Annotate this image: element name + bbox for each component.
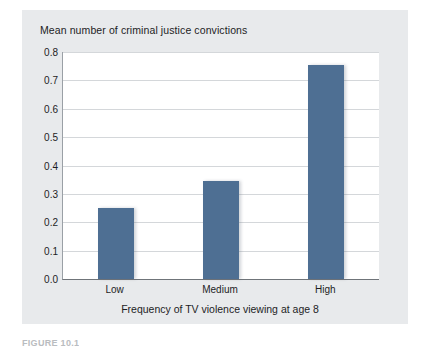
plot-area bbox=[62, 52, 379, 280]
y-axis-tick-label: 0.7 bbox=[44, 75, 58, 86]
y-axis-tick-label: 0.5 bbox=[44, 132, 58, 143]
y-axis-tick-labels: 0.80.70.60.50.40.30.20.10.0 bbox=[26, 52, 58, 279]
y-axis-tick-label: 0.6 bbox=[44, 103, 58, 114]
y-axis-tick-label: 0.1 bbox=[44, 245, 58, 256]
bar-series bbox=[63, 52, 379, 279]
y-axis-tick-label: 0.8 bbox=[44, 47, 58, 58]
y-axis-tick-label: 0.2 bbox=[44, 217, 58, 228]
bar-slot bbox=[274, 52, 379, 279]
figure-caption: FIGURE 10.1 bbox=[22, 338, 79, 347]
x-axis-tick-label: High bbox=[315, 284, 336, 295]
bar-slot bbox=[168, 52, 273, 279]
bar[interactable] bbox=[98, 208, 134, 279]
bar[interactable] bbox=[203, 181, 239, 279]
x-axis-tick-label: Low bbox=[105, 284, 123, 295]
bar[interactable] bbox=[308, 65, 344, 279]
chart-title: Mean number of criminal justice convicti… bbox=[40, 24, 247, 36]
y-axis-tick-label: 0.4 bbox=[44, 160, 58, 171]
y-axis-tick-label: 0.3 bbox=[44, 188, 58, 199]
x-axis-tick-label: Medium bbox=[202, 284, 238, 295]
bar-slot bbox=[63, 52, 168, 279]
x-axis-category-labels: LowMediumHigh bbox=[62, 284, 378, 300]
y-axis-tick-label: 0.0 bbox=[44, 274, 58, 285]
x-axis-title: Frequency of TV violence viewing at age … bbox=[62, 303, 378, 315]
figure-root: Mean number of criminal justice convicti… bbox=[0, 0, 430, 347]
